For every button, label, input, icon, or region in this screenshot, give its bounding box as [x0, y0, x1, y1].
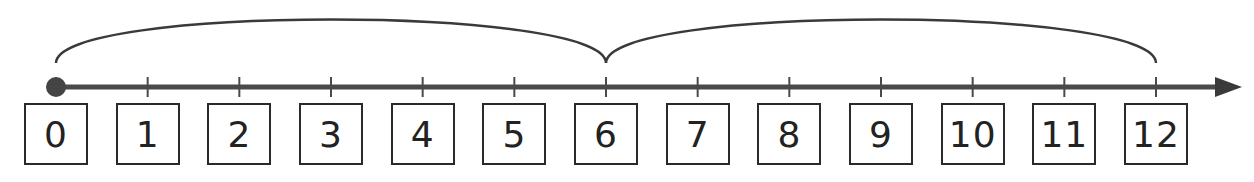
jump-arc — [56, 20, 606, 64]
jump-arcs — [56, 20, 1156, 64]
number-label-box: 2 — [207, 103, 271, 165]
number-label-box: 1 — [116, 103, 180, 165]
number-label-box: 6 — [574, 103, 638, 165]
start-dot-icon — [46, 77, 66, 97]
number-label-box: 5 — [482, 103, 546, 165]
number-label-box: 10 — [941, 103, 1005, 165]
number-label-box: 12 — [1124, 103, 1188, 165]
number-label-box: 4 — [391, 103, 455, 165]
number-label-box: 3 — [299, 103, 363, 165]
jump-arc — [606, 20, 1156, 64]
number-label-box: 9 — [849, 103, 913, 165]
number-label-box: 11 — [1032, 103, 1096, 165]
number-line-diagram: 0123456789101112 — [0, 0, 1254, 182]
number-label-box: 8 — [757, 103, 821, 165]
arrow-head-icon — [1215, 77, 1242, 97]
number-label-box: 7 — [666, 103, 730, 165]
number-label-box: 0 — [24, 103, 88, 165]
